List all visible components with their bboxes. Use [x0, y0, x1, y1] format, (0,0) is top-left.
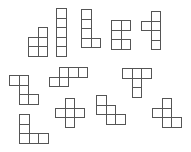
grid-cell: [74, 108, 85, 119]
grid-cell: [115, 114, 126, 125]
grid-cell: [132, 87, 143, 98]
grid-cell: [78, 67, 89, 78]
grid-cell: [38, 46, 49, 57]
grid-cell: [65, 117, 76, 128]
grid-cell: [121, 20, 132, 31]
grid-cell: [141, 68, 152, 79]
grid-cell: [121, 39, 132, 50]
grid-cell: [171, 117, 182, 128]
grid-cell: [91, 38, 102, 49]
grid-cell: [151, 40, 162, 51]
pentomino-diagram: [0, 0, 191, 152]
grid-cell: [28, 94, 39, 105]
grid-cell: [56, 46, 67, 57]
grid-cell: [38, 133, 49, 144]
grid-cell: [59, 77, 70, 88]
